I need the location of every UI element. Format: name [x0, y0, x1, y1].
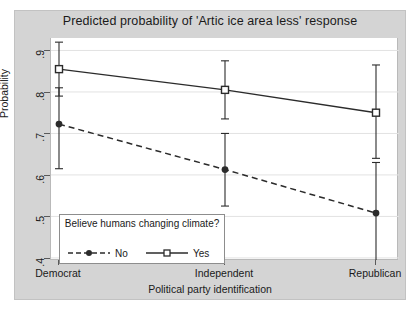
y-tick-7: .7 — [18, 133, 40, 134]
data-point — [373, 109, 380, 116]
legend[interactable]: Believe humans changing climate? No Yes — [59, 214, 225, 264]
y-tick-label: .8 — [34, 92, 46, 101]
legend-label-yes: Yes — [193, 248, 209, 259]
data-point — [222, 166, 229, 173]
data-point — [56, 121, 63, 128]
x-axis-label: Political party identification — [14, 283, 406, 295]
legend-title: Believe humans changing climate? — [60, 218, 224, 230]
y-tick-label: .4 — [34, 258, 46, 267]
legend-swatch-yes — [145, 247, 189, 259]
y-tick-label: .6 — [34, 175, 46, 184]
x-tick-label-democrat: Democrat — [35, 267, 81, 279]
x-tick-mark — [375, 260, 376, 265]
chart-screenshot: Predicted probability of 'Artic ice area… — [0, 0, 418, 319]
y-axis-label: Probability — [0, 69, 10, 118]
y-tick-8: .8 — [18, 92, 40, 93]
series-yes — [55, 42, 380, 158]
legend-item-yes[interactable]: Yes — [145, 247, 209, 259]
y-tick-9: .9 — [18, 50, 40, 51]
x-tick-label-republican: Republican — [349, 267, 402, 279]
legend-label-no: No — [115, 248, 128, 259]
series-line — [59, 69, 376, 113]
data-point — [373, 210, 380, 217]
data-point — [222, 86, 229, 93]
y-tick-4: .4 — [18, 258, 40, 259]
y-tick-label: .7 — [34, 133, 46, 142]
x-tick-label-independent: Independent — [195, 267, 253, 279]
y-tick-5: .5 — [18, 216, 40, 217]
chart-title: Predicted probability of 'Artic ice area… — [14, 14, 406, 28]
series-line — [59, 124, 376, 213]
data-point — [56, 66, 63, 73]
y-tick-label: .5 — [34, 216, 46, 225]
y-tick-6: .6 — [18, 175, 40, 176]
error-bar — [55, 88, 63, 169]
y-tick-label: .9 — [34, 50, 46, 59]
legend-item-no[interactable]: No — [67, 247, 128, 259]
legend-swatch-no — [67, 247, 111, 259]
